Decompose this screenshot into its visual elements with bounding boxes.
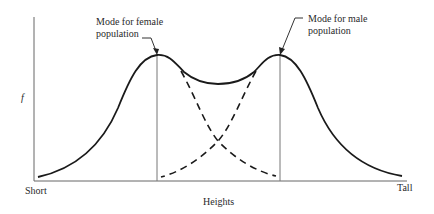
- bimodal-distribution-diagram: [0, 0, 434, 214]
- male-mode-label-line2: population: [308, 25, 351, 36]
- female-mode-label-line2: population: [96, 28, 139, 39]
- male-mode-arrowhead: [279, 47, 285, 55]
- male-mode-label-line1: Mode for male: [308, 13, 367, 24]
- male-mode-arrow: [282, 18, 303, 50]
- female-mode-label-line1: Mode for female: [96, 16, 163, 27]
- x-max-label: Tall: [397, 182, 412, 193]
- x-min-label: Short: [25, 185, 47, 196]
- combined-distribution-curve: [38, 55, 402, 177]
- female-mode-arrowhead: [153, 48, 159, 55]
- y-axis-label: f: [21, 92, 24, 103]
- x-axis-label: Heights: [203, 196, 234, 207]
